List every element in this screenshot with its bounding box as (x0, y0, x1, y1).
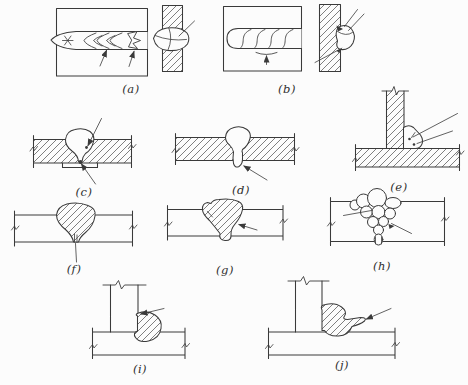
figure-g-label: (g) (216, 263, 234, 277)
horizontal-plate-hatch (356, 149, 460, 168)
pointer-arrow (367, 309, 392, 320)
figure-e-drawing (353, 87, 465, 171)
figure-h-drawing (328, 189, 450, 246)
pointer-arrow (129, 52, 134, 67)
fillet-weld (134, 312, 161, 342)
figure-e-label: (e) (390, 180, 407, 194)
figure-d-label: (d) (232, 183, 250, 197)
top-break (103, 281, 146, 290)
pointer-arrow (100, 51, 107, 67)
figure-i-drawing (90, 281, 190, 359)
figure-a-drawing (51, 6, 195, 77)
figure-f-label: (f) (67, 262, 82, 276)
figure-c-label: (c) (76, 185, 93, 199)
porosity-dot (408, 138, 411, 141)
figure-j-label: (j) (335, 358, 349, 372)
fillet-weld (321, 304, 365, 336)
vertical-plate-outline (296, 281, 323, 332)
weld-nugget (57, 203, 96, 242)
inclusion-dot (85, 146, 88, 149)
leader-line (413, 114, 458, 138)
bead-cluster (350, 189, 401, 246)
figure-f-drawing (12, 203, 138, 262)
figure-h-label: (h) (373, 259, 391, 273)
figure-g-drawing (165, 199, 288, 240)
figure-j-drawing (266, 277, 400, 359)
figure-d-drawing (172, 127, 299, 180)
vertical-plate-outline (111, 285, 139, 332)
root-defect-dot (79, 160, 83, 164)
pointer-arrow (244, 166, 267, 180)
leader-line (392, 224, 412, 234)
leader-line (345, 10, 358, 27)
figure-i-label: (i) (133, 362, 147, 376)
figure-a-label: (a) (122, 82, 139, 96)
weld-nugget (202, 199, 242, 240)
figure-b-label: (b) (278, 82, 296, 96)
leader-line (417, 131, 453, 144)
leader-line (349, 14, 365, 31)
leader-line (76, 244, 77, 263)
weld-bead-band (227, 29, 302, 49)
top-break (288, 277, 329, 286)
weld-defects-diagram-page: (a) (b) (c) (d) (e) (f) (g) (h) (i) (j) (0, 0, 468, 385)
root-bead-curve (256, 53, 277, 55)
vertical-plate-hatch (387, 91, 405, 148)
porosity-dot (413, 143, 416, 146)
figure-b-drawing (224, 5, 365, 72)
break-marks (266, 343, 400, 349)
break-marks (90, 344, 190, 349)
figure-c-drawing (30, 119, 136, 185)
pointer-arrow (239, 225, 257, 231)
